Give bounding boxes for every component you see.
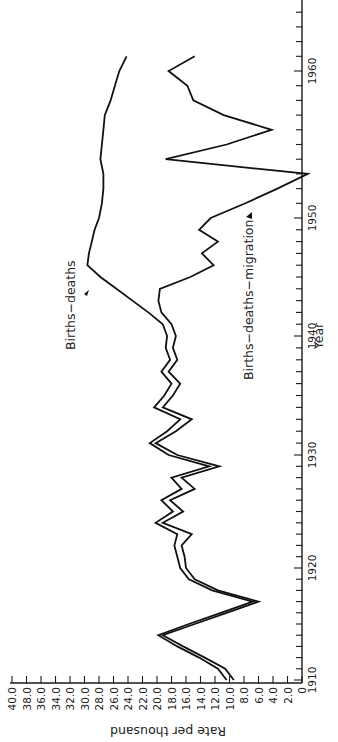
year-tick-label: 1950 (306, 205, 318, 232)
rate-tick-label: 26.0 (108, 687, 120, 710)
rate-tick-label: 30.0 (79, 687, 91, 710)
rate-tick-label: 36.0 (35, 687, 47, 710)
y-axis-title: Rate per thousand (110, 724, 226, 739)
rate-tick-label: 18.0 (166, 687, 178, 710)
arrow-icon-births-deaths-migration (246, 212, 252, 219)
rate-tick-label: 28.0 (93, 687, 105, 710)
rate-tick-label: 22.0 (137, 687, 149, 710)
rate-tick-label: 38.0 (21, 687, 33, 710)
rate-tick-label: 20.0 (151, 687, 163, 710)
rate-tick-label: 10.0 (224, 687, 236, 710)
arrow-icon-births-deaths (84, 290, 89, 296)
rate-tick-label: 32.0 (64, 687, 76, 710)
year-tick-label: 1930 (306, 442, 318, 469)
rate-tick-label: 14.0 (195, 687, 207, 710)
annotation-births-deaths: Births−deaths (63, 260, 78, 350)
rate-tick-label: 16.0 (180, 687, 192, 710)
rate-tick-label: 34.0 (50, 687, 62, 710)
x-axis-title: Year (311, 322, 326, 350)
year-tick-label: 1960 (306, 58, 318, 85)
annotation-births-deaths-migration: Births−deaths−migration (241, 220, 256, 380)
population-rate-chart: 02.04.06.08.010.012.014.016.018.020.022.… (0, 0, 338, 742)
rate-tick-label: 6.0 (253, 687, 265, 704)
rate-tick-label: 40.0 (6, 687, 18, 710)
year-tick-label: 1910 (306, 667, 318, 694)
rate-tick-label: 2.0 (282, 687, 294, 704)
axes: 02.04.06.08.010.012.014.016.018.020.022.… (6, 0, 318, 710)
rate-tick-label: 8.0 (238, 687, 250, 704)
rate-tick-label: 4.0 (267, 687, 279, 704)
rate-tick-label: 24.0 (122, 687, 134, 710)
series-layer (87, 56, 307, 680)
rate-tick-label: 12.0 (209, 687, 221, 710)
year-tick-label: 1920 (306, 555, 318, 582)
series-births-deaths (87, 56, 252, 680)
series-births-deaths-migration (156, 56, 308, 680)
annotations: Rate per thousand Year Births−deaths Bir… (63, 212, 326, 739)
